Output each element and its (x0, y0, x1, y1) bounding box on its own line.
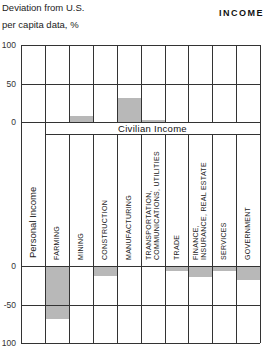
bar-construction-neg (93, 266, 117, 276)
category-label-farming: FARMING (53, 226, 61, 260)
civilian-income-label: Civilian Income (45, 123, 260, 134)
category-label-services: SERVICES (220, 222, 228, 260)
category-label-transportation-line2: COMMUNICATIONS, UTILITIES (153, 151, 161, 260)
category-label-mining: MINING (77, 233, 85, 260)
negative-bars (45, 266, 260, 319)
bar-government-neg (236, 266, 260, 280)
chart-canvas (0, 0, 274, 358)
bar-transportation-pos (141, 120, 165, 122)
category-label-transportation-line1: TRANSPORTATION, (145, 190, 153, 260)
category-label-finance-line1: FINANCE, (192, 225, 200, 260)
category-label-manufacturing: MANUFACTURING (125, 195, 133, 260)
bar-finance-neg (188, 266, 212, 277)
category-label-trade: TRADE (173, 235, 181, 260)
bar-manufacturing-pos (117, 98, 141, 122)
category-label-finance-line2: INSURANCE, REAL ESTATE (200, 162, 208, 260)
category-label-personal-income: Personal Income (27, 187, 38, 258)
bar-mining-pos (69, 116, 93, 122)
bar-farming-neg (45, 266, 69, 319)
category-label-construction: CONSTRUCTION (101, 200, 109, 260)
category-label-government: GOVERNMENT (244, 207, 252, 260)
